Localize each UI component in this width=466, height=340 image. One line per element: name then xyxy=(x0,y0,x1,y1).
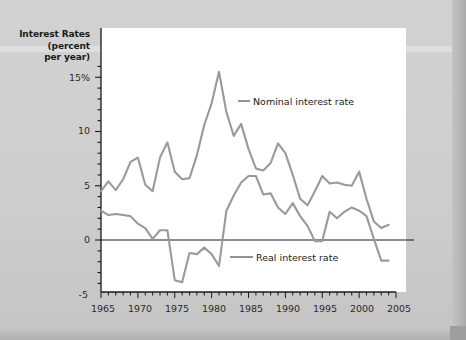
x-axis-ticks xyxy=(101,292,396,298)
nominal-interest-rate-line xyxy=(101,72,389,228)
page-edge-right xyxy=(452,0,466,340)
page-sheet: Interest Rates (percent per year) 15% 10… xyxy=(0,0,466,340)
chart-svg xyxy=(0,0,466,340)
page-corner-fold xyxy=(450,326,466,340)
real-interest-rate-line xyxy=(101,176,389,282)
y-axis-ticks xyxy=(95,66,101,283)
axis-lines xyxy=(101,28,414,292)
page-edge-bottom xyxy=(0,330,466,340)
